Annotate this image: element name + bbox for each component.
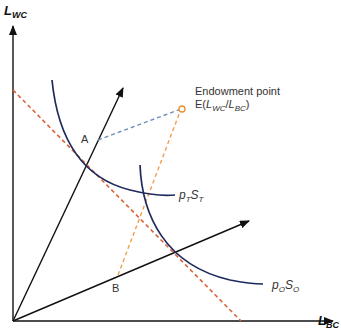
point-a-label: A [81, 133, 88, 145]
endowment-point-marker [179, 106, 185, 112]
y-axis-label: LWC [4, 3, 27, 20]
isoquant-pt-st [52, 80, 175, 195]
isoquant-po-so-label: pOSO [272, 278, 299, 294]
isoquant-pt-st-label: pTST [179, 188, 203, 204]
ray-other [13, 221, 249, 321]
endowment-label: Endowment point E(LWC/LBC) [195, 85, 280, 115]
x-axis-label: LBC [318, 313, 339, 330]
point-b-label: B [112, 282, 119, 294]
endowment-formula: E(LWC/LBC) [195, 98, 280, 115]
ray-tradable [13, 88, 123, 321]
isoquant-po-so [140, 165, 263, 284]
endowment-title: Endowment point [195, 85, 280, 98]
budget-line [13, 90, 241, 321]
